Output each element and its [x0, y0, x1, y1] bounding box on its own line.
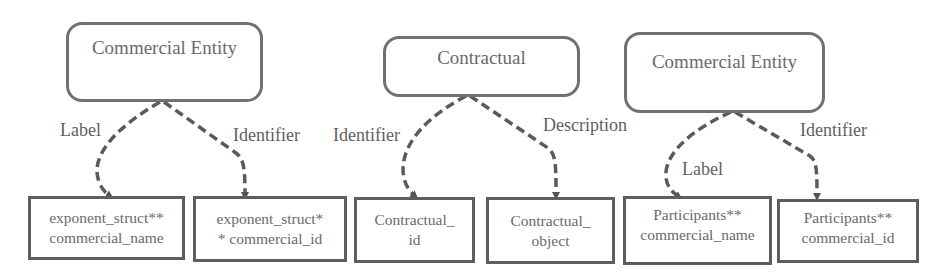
entity-label: Contractual: [386, 47, 577, 69]
edge-label-identifier-2: Identifier: [333, 125, 400, 146]
field-text: exponent_struct* * commercial_id: [217, 209, 324, 249]
entity-commercial-entity-2: Commercial Entity: [624, 32, 825, 113]
diagram-canvas: Commercial Entity Contractual Commercial…: [0, 0, 944, 278]
field-contractual-object: Contractual_ object: [486, 197, 615, 264]
entity-contractual: Contractual: [383, 36, 580, 97]
field-text: Participants** commercial_id: [802, 208, 895, 248]
field-text: Contractual_ id: [374, 210, 454, 250]
entity-commercial-entity-1: Commercial Entity: [66, 22, 263, 102]
field-text: exponent_struct** commercial_name: [49, 208, 164, 248]
field-text: Contractual_ object: [510, 211, 590, 251]
edge-label-label-3: Label: [682, 159, 723, 180]
arrow-description-2: [470, 96, 556, 196]
field-participants-commercial-name: Participants** commercial_name: [623, 196, 772, 265]
field-participants-commercial-id: Participants** commercial_id: [777, 199, 919, 263]
entity-label: Commercial Entity: [69, 37, 260, 59]
edge-label-identifier-3: Identifier: [800, 120, 867, 141]
field-exponent-struct-commercial-id: exponent_struct* * commercial_id: [193, 196, 347, 262]
field-contractual-id: Contractual_ id: [354, 197, 475, 263]
edge-label-description-2: Description: [543, 115, 627, 136]
entity-label: Commercial Entity: [627, 51, 822, 73]
arrow-identifier-2: [403, 96, 466, 196]
arrow-label-3: [666, 112, 731, 197]
field-text: Participants** commercial_name: [640, 205, 754, 245]
edge-label-label-1: Label: [60, 120, 101, 141]
arrow-identifier-1: [164, 102, 245, 196]
field-exponent-struct-commercial-name: exponent_struct** commercial_name: [28, 196, 185, 260]
edge-label-identifier-1: Identifier: [233, 125, 300, 146]
arrow-label-1: [97, 102, 160, 196]
